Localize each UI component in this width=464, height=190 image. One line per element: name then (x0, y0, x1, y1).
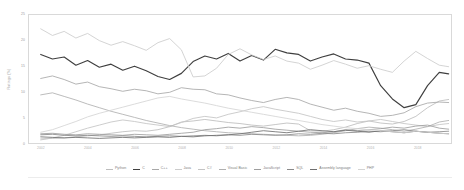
legend-item[interactable]: Visual Basic (219, 167, 248, 171)
legend-swatch-icon (198, 169, 205, 170)
y-axis-tick: 10 (21, 91, 25, 94)
x-axis-tick: 2006 (131, 147, 139, 150)
x-axis-tick: 2002 (37, 147, 45, 150)
series-line (41, 29, 449, 77)
x-axis-tick: 2004 (84, 147, 92, 150)
y-axis-tick: 0 (23, 143, 25, 146)
legend-label: Assembly language (319, 167, 350, 171)
chart-lines (29, 15, 451, 143)
legend-item[interactable]: SQL (287, 167, 303, 171)
x-axis-tick: 2008 (178, 147, 186, 150)
chart-container: Ratings (%) 0510152025200220042006200820… (0, 0, 464, 190)
y-axis-tick: 20 (21, 39, 25, 42)
legend-swatch-icon (254, 169, 261, 170)
legend-label: Visual Basic (228, 167, 248, 171)
legend-item[interactable]: Python (106, 167, 126, 171)
legend-label: PHP (367, 167, 374, 171)
legend-swatch-icon (358, 169, 365, 170)
legend-item[interactable]: Assembly language (310, 167, 350, 171)
legend-swatch-icon (219, 169, 226, 170)
legend-item[interactable]: JavaScript (254, 167, 280, 171)
y-axis-tick: 5 (23, 117, 25, 120)
y-axis-label: Ratings (%) (7, 69, 11, 90)
legend-label: C (142, 167, 145, 171)
legend-item[interactable]: C (133, 167, 145, 171)
legend-swatch-icon (133, 169, 140, 170)
legend-label: C++ (161, 167, 168, 171)
legend-label: SQL (296, 167, 303, 171)
x-axis-tick: 2016 (367, 147, 375, 150)
legend-label: Python (115, 167, 126, 171)
legend-label: C# (207, 167, 212, 171)
chart-legend: PythonCC++JavaC#Visual BasicJavaScriptSQ… (28, 162, 452, 176)
legend-label: JavaScript (263, 167, 280, 171)
legend-item[interactable]: C# (198, 167, 212, 171)
legend-item[interactable]: PHP (358, 167, 374, 171)
legend-label: Java (184, 167, 192, 171)
x-axis-tick: 2014 (320, 147, 328, 150)
x-axis-tick: 2018 (414, 147, 422, 150)
legend-swatch-icon (106, 169, 113, 170)
y-axis-tick: 25 (21, 13, 25, 16)
legend-swatch-icon (287, 169, 294, 170)
legend-swatch-icon (152, 169, 159, 170)
x-axis-tick: 2010 (225, 147, 233, 150)
y-axis-tick: 15 (21, 65, 25, 68)
legend-item[interactable]: C++ (152, 167, 168, 171)
x-axis-tick: 2012 (273, 147, 281, 150)
legend-divider (28, 177, 452, 178)
legend-swatch-icon (310, 169, 317, 170)
plot-area: 0510152025200220042006200820102012201420… (28, 14, 452, 144)
legend-item[interactable]: Java (175, 167, 192, 171)
legend-swatch-icon (175, 169, 182, 170)
